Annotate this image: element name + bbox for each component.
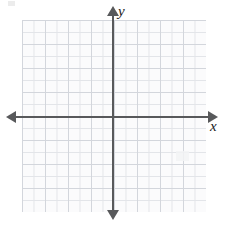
x-axis-arrow-left-icon [6,111,16,123]
y-axis-label: y [118,4,125,19]
coordinate-plane-figure: y x [0,0,226,229]
y-axis-arrow-down-icon [107,210,119,220]
scan-artifact [8,1,15,6]
y-axis-line [112,14,114,214]
grid-smudge-artifact [176,151,189,161]
x-axis-label: x [210,119,217,134]
